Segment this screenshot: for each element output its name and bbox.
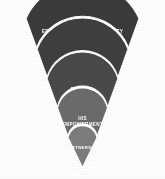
band-label-bottom: PARTNERSHIP xyxy=(65,145,99,150)
band-partnership: PARTNERSHIP xyxy=(65,126,99,168)
wedge-diagram-canvas: EFFECTIVENESS + CREDIBILITY HEIGHTENED A… xyxy=(0,0,165,179)
funnel-diagram: EFFECTIVENESS + CREDIBILITY HEIGHTENED A… xyxy=(0,0,165,179)
band-label-fourth-line1: HIS xyxy=(78,116,87,121)
